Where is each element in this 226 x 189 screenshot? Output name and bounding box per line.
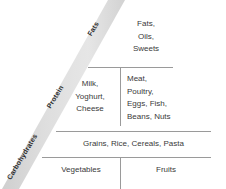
cell-line: Oils, — [138, 31, 154, 44]
cell-line: Eggs, Fish, — [127, 98, 167, 111]
food-pyramid-diagram: Fats Protein Carbohydrates Fats, Oils, S… — [0, 0, 226, 189]
cell-line: Vegetables — [61, 164, 101, 177]
cell-line: Grains, Rice, Cereals, Pasta — [83, 138, 184, 151]
cell-fruits: Fruits — [121, 158, 211, 182]
cell-line: Yoghurt, — [75, 91, 105, 104]
tier-rule-1 — [88, 67, 173, 68]
cell-line: Sweets — [133, 43, 159, 56]
cell-fats-oils-sweets: Fats, Oils, Sweets — [118, 14, 174, 60]
cell-line: Poultry, — [127, 86, 154, 99]
cell-line: Meat, — [127, 73, 147, 86]
tier-rule-2 — [56, 131, 211, 132]
cell-protein-foods: Meat, Poultry, Eggs, Fish, Beans, Nuts — [127, 70, 207, 126]
cell-vegetables: Vegetables — [42, 158, 120, 182]
cell-line: Fats, — [137, 18, 155, 31]
cell-line: Cheese — [76, 103, 104, 116]
cell-line: Fruits — [156, 164, 176, 177]
tier-2-divider — [120, 67, 121, 126]
cell-grains: Grains, Rice, Cereals, Pasta — [56, 133, 211, 155]
cell-dairy: Milk, Yoghurt, Cheese — [64, 72, 116, 122]
cell-line: Beans, Nuts — [127, 111, 171, 124]
cell-line: Milk, — [82, 78, 98, 91]
